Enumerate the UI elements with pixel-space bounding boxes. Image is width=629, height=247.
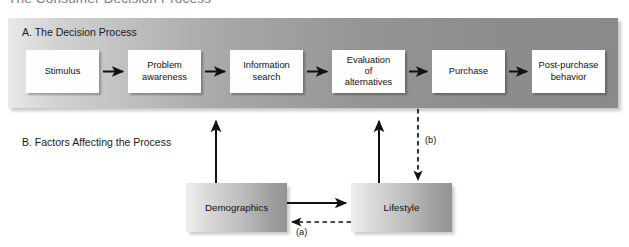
- process-box-evaluation-line2: of: [343, 66, 395, 77]
- factor-box-demographics-label: Demographics: [205, 202, 268, 213]
- section-b-label: B. Factors Affecting the Process: [22, 136, 171, 148]
- process-box-postpurchase-line1: Post-purchase: [537, 60, 601, 71]
- process-box-evaluation-alternatives[interactable]: Evaluation of alternatives: [332, 50, 405, 93]
- process-box-evaluation-line3: alternatives: [343, 77, 395, 88]
- process-box-problem-line2: awareness: [140, 72, 189, 83]
- process-box-problem-line1: Problem: [140, 60, 189, 71]
- process-box-information-search[interactable]: Information search: [230, 50, 303, 93]
- diagram-canvas: The Consumer Decision Process A. The Dec…: [0, 0, 629, 247]
- factor-box-lifestyle[interactable]: Lifestyle: [351, 183, 452, 232]
- process-box-problem-awareness[interactable]: Problem awareness: [128, 50, 201, 93]
- factor-box-lifestyle-label: Lifestyle: [384, 202, 420, 213]
- annotation-label-a: (a): [296, 227, 307, 237]
- process-box-stimulus[interactable]: Stimulus: [26, 50, 99, 93]
- section-a-label: A. The Decision Process: [22, 26, 137, 38]
- process-box-purchase[interactable]: Purchase: [432, 50, 505, 93]
- annotation-label-b: (b): [425, 135, 436, 145]
- process-box-purchase-label: Purchase: [447, 66, 490, 77]
- factor-box-demographics[interactable]: Demographics: [186, 183, 287, 232]
- process-box-post-purchase-behavior[interactable]: Post-purchase behavior: [532, 50, 605, 93]
- figure-title: The Consumer Decision Process: [8, 0, 211, 6]
- process-box-information-line1: Information: [241, 60, 292, 71]
- process-box-stimulus-label: Stimulus: [43, 66, 83, 77]
- process-box-postpurchase-line2: behavior: [537, 72, 601, 83]
- process-box-evaluation-line1: Evaluation: [343, 55, 395, 66]
- process-box-information-line2: search: [241, 72, 292, 83]
